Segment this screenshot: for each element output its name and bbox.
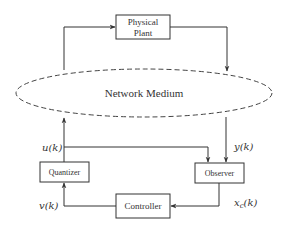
physical-plant-block: Physical Plant [116,15,170,39]
network-medium-label: Network Medium [105,87,184,99]
plant-to-network-edge [170,27,227,71]
plant-label-line1: Physical [128,17,159,27]
network-to-plant-edge [64,27,115,70]
signal-y-label: y(k) [233,141,254,152]
observer-label: Observer [205,169,235,178]
quantizer-block: Quantizer [40,162,89,182]
plant-label-line2: Plant [134,28,153,38]
observer-block: Observer [195,163,244,183]
controller-to-quantizer-edge [64,183,116,206]
observer-to-controller-edge [171,183,219,206]
network-medium-block: Network Medium [16,69,272,117]
u-to-observer-edge [64,147,208,162]
signal-v-label: v(k) [39,200,59,211]
signal-xc-arg: (k) [244,197,258,208]
quantizer-label: Quantizer [49,168,81,177]
signal-xc-label: xc(k) [234,197,258,210]
networked-control-diagram: Physical Plant Network Medium Quantizer … [0,0,283,236]
controller-label: Controller [125,201,162,211]
controller-block: Controller [116,194,170,218]
signal-u-label: u(k) [42,142,62,153]
